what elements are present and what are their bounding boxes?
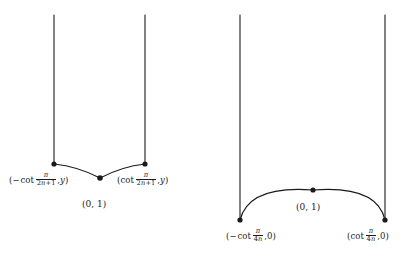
fraction-numerator: π [136,172,157,179]
denominator-variable: n [371,235,375,243]
left-diagram [51,15,147,181]
fraction-numerator: π [366,228,377,235]
paren-close: ) [386,231,389,241]
left-diagram-label-left: (−cotπ2n+1,y) [9,172,68,187]
cot-function: cot [120,175,134,185]
figure-page: { "figure": { "background_color": "#ffff… [0,0,415,258]
paren-close: ) [65,175,68,185]
right-endpoint-dot-right [382,217,387,222]
right-center-dot [310,187,315,192]
right-diagram-center-label: (0, 1) [296,203,320,212]
left-center-dot [97,175,103,181]
left-endpoint-dot-right [142,161,147,166]
fraction: π2n+1 [136,172,157,187]
right-diagram [237,15,387,223]
cot-function: cot [237,231,251,241]
fraction: π4n [253,228,264,243]
left-endpoint-dot-left [51,161,56,166]
left-diagram-center-label: (0, 1) [82,200,106,209]
figure-canvas [0,0,415,258]
cot-function: cot [350,231,364,241]
fraction: π4n [366,228,377,243]
fraction-denominator: 4n [253,235,264,243]
fraction: π2n+1 [36,172,57,187]
denominator-addend: +1 [45,179,55,187]
paren-close: ) [273,231,276,241]
fraction-numerator: π [36,172,57,179]
right-arc-right [313,189,385,220]
fraction-denominator: 2n+1 [36,179,57,187]
denominator-variable: n [258,235,262,243]
paren-close: ) [165,175,168,185]
right-endpoint-dot-left [237,217,242,222]
left-diagram-label-right: (cotπ2n+1,y) [117,172,168,187]
fraction-denominator: 2n+1 [136,179,157,187]
cot-function: cot [20,175,34,185]
right-diagram-label-right: (cotπ4n,0) [347,228,389,243]
denominator-addend: +1 [145,179,155,187]
right-diagram-label-left: (−cotπ4n,0) [226,228,276,243]
fraction-denominator: 4n [366,235,377,243]
fraction-numerator: π [253,228,264,235]
